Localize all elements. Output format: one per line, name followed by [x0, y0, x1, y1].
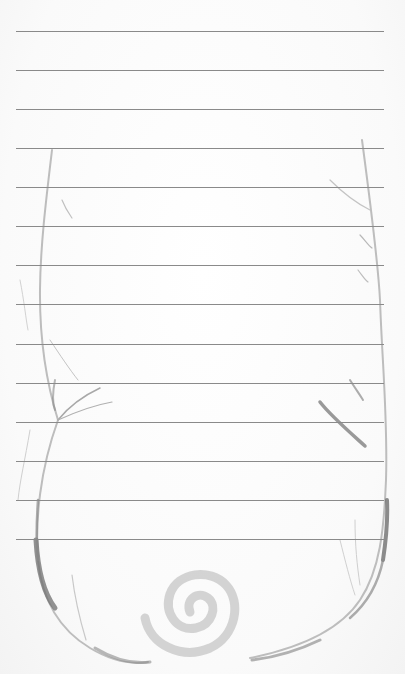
ruled-line: [16, 70, 384, 71]
ruled-line: [16, 383, 384, 384]
ruled-line: [16, 187, 384, 188]
ruled-line: [16, 500, 384, 501]
vine-right-icon: [250, 140, 387, 660]
ruled-line: [16, 539, 384, 540]
ruled-line: [16, 148, 384, 149]
ruled-line: [16, 344, 384, 345]
ruled-line: [16, 31, 384, 32]
ruled-line: [16, 304, 384, 305]
spiral-icon: [145, 574, 235, 652]
ruled-line: [16, 461, 384, 462]
vine-frame-decoration: [0, 0, 405, 674]
ruled-line: [16, 226, 384, 227]
ruled-line: [16, 109, 384, 110]
ruled-line: [16, 422, 384, 423]
notepaper: [0, 0, 405, 674]
ruled-line: [16, 265, 384, 266]
